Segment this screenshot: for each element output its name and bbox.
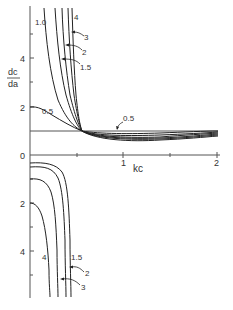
curve-label-2-lower: 2 xyxy=(85,269,90,278)
curve-2 xyxy=(62,8,218,138)
chart: dc da kc 1 2 0 2 4 2 4 1.0 4 3 2 1.5 0.5… xyxy=(0,0,233,310)
tick-y-4-lower: 4 xyxy=(20,247,25,257)
curve-label-2-upper: 2 xyxy=(82,48,87,57)
y-label-den: da xyxy=(8,79,18,89)
curve-label-1-5-upper: 1.5 xyxy=(80,63,92,72)
curve-label-1-0: 1.0 xyxy=(35,18,47,27)
lower-curves xyxy=(30,163,71,297)
curve-label-0-5-right: 0.5 xyxy=(123,114,135,123)
tick-x-2: 2 xyxy=(214,158,219,168)
tick-y-4-upper: 4 xyxy=(20,54,25,64)
curve-label-1-5-lower: 1.5 xyxy=(71,253,83,262)
curve-4 xyxy=(72,8,218,141)
curve-label-4-lower: 4 xyxy=(42,253,47,262)
x-axis-label: kc xyxy=(133,163,143,174)
tick-y-2-upper: 2 xyxy=(20,103,25,113)
curve-label-0-5-left: 0.5 xyxy=(42,107,54,116)
tick-x-1: 1 xyxy=(121,158,126,168)
text-labels: dc da kc 1 2 0 2 4 2 4 1.0 4 3 2 1.5 0.5… xyxy=(7,13,219,292)
curve-label-4-upper: 4 xyxy=(74,13,79,22)
curve-lower-4 xyxy=(30,203,50,297)
curve-label-3-upper: 3 xyxy=(84,33,89,42)
curve-lower-3 xyxy=(30,179,58,297)
tick-y-2-lower: 2 xyxy=(20,199,25,209)
y-label-num: dc xyxy=(8,67,18,77)
curve-label-3-lower: 3 xyxy=(81,283,86,292)
curve-3 xyxy=(68,8,218,139)
tick-y-0: 0 xyxy=(20,151,25,161)
curve-1-5 xyxy=(55,8,218,137)
